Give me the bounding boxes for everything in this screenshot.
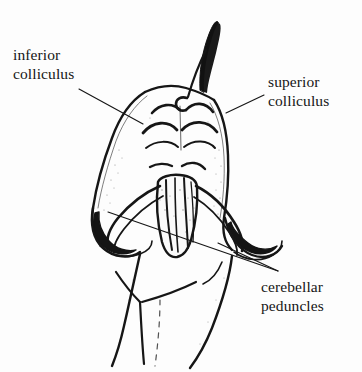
label-superior-colliculus: superior colliculus <box>268 72 329 110</box>
label-cerebellar-peduncles: cerebellar peduncles <box>261 277 324 315</box>
label-superior-colliculus-line2: colliculus <box>268 91 329 110</box>
label-inferior-colliculus-line1: inferior <box>13 46 60 63</box>
label-superior-colliculus-line1: superior <box>268 73 320 90</box>
label-inferior-colliculus-line2: colliculus <box>13 64 74 83</box>
figure-canvas: inferior colliculus superior colliculus … <box>0 0 362 372</box>
label-cerebellar-peduncles-line2: peduncles <box>261 296 324 315</box>
label-cerebellar-peduncles-line1: cerebellar <box>261 278 323 295</box>
label-inferior-colliculus: inferior colliculus <box>13 45 74 83</box>
